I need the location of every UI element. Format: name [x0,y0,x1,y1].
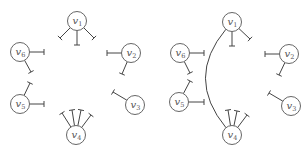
half-edge-stub [59,111,70,127]
half-edge-stub [225,110,231,126]
vertex-v2: v2 [280,45,299,64]
half-edge-stub [25,60,34,73]
half-edge-stub [265,51,280,57]
half-edge-stub [119,62,127,75]
half-edge-stub [111,89,126,100]
vertex-v3: v3 [282,97,301,116]
diagram-right [183,29,285,128]
vertex-v5: v5 [11,95,30,114]
half-edge-stub [276,63,285,77]
tee-end-icon [59,111,64,114]
half-edge-stub [189,99,205,105]
vertex-v2: v2 [122,44,141,63]
half-edge-stub [190,50,205,56]
tee-end-icon [234,110,240,111]
graph-canvas: v1v2v3v4v5v6v1v2v3v4v5v6 [0,0,308,154]
tee-end-icon [225,110,231,111]
vertex-v3: v3 [126,96,145,115]
half-edge-stub [82,113,94,127]
half-edge-stub [183,80,192,94]
half-edge-stub [74,31,80,46]
half-edge-stub [229,32,235,47]
vertex-v1: v1 [68,12,87,31]
half-edge-stub [239,29,252,42]
half-edge-stub [107,50,122,56]
tee-end-icon [267,90,270,95]
vertex-v6: v6 [11,43,30,62]
nodes-right: v1v2v3v4v5v6 [170,13,301,145]
nodes-layer: v1v2v3v4v5v6v1v2v3v4v5v6 [11,12,301,145]
tee-end-icon [69,110,75,111]
half-edge-stub [30,49,45,55]
vertex-v1: v1 [223,13,242,32]
half-edge-stub [238,113,250,127]
vertex-v4: v4 [67,126,86,145]
half-edge-stub [69,110,75,126]
diagram-left [24,28,127,128]
half-edge-stub [267,90,282,101]
vertex-v4: v4 [223,126,242,145]
half-edge-stub [78,109,84,125]
half-edge-stub [30,101,45,107]
half-edge-stub [84,28,96,40]
half-edge-stub [234,110,240,125]
half-edge-stub [58,28,70,40]
tee-end-icon [245,113,250,117]
arc-edge [205,29,225,127]
vertex-v6: v6 [171,44,190,63]
tee-end-icon [78,109,84,110]
half-edge-stub [184,61,192,74]
edges-layer [24,28,285,128]
half-edge-stub [24,82,33,96]
vertex-v5: v5 [170,93,189,112]
tee-end-icon [111,89,114,94]
tee-end-icon [89,113,94,117]
